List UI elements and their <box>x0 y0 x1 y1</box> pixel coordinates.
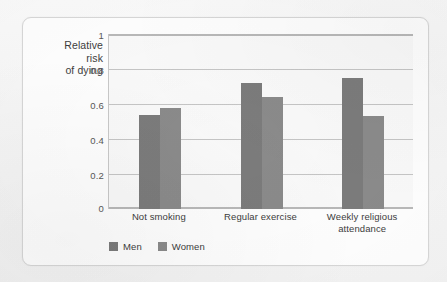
y-axis-title-line-1: Relative <box>35 39 103 52</box>
x-axis-label-line: Regular exercise <box>210 211 312 223</box>
legend-label-women: Women <box>172 241 205 252</box>
bar-women[interactable] <box>363 116 384 209</box>
x-axis-label: Regular exercise <box>210 211 312 223</box>
x-axis-label: Weekly religiousattendance <box>311 211 413 235</box>
y-tick-label-0.2: 0.2 <box>90 169 104 180</box>
bar-men[interactable] <box>342 78 363 209</box>
bar-women[interactable] <box>262 97 283 209</box>
x-axis-label: Not smoking <box>108 211 210 223</box>
bar-group <box>241 34 283 209</box>
y-tick-label-0.4: 0.4 <box>90 134 104 145</box>
x-axis-label-line: attendance <box>311 223 413 235</box>
x-axis-label-line: Not smoking <box>108 211 210 223</box>
legend-label-men: Men <box>123 241 142 252</box>
bar-men[interactable] <box>241 83 262 209</box>
y-tick-label-1: 1 <box>99 30 104 41</box>
bar-men[interactable] <box>139 115 160 210</box>
figure-card: Relative risk of dying 00.20.40.60.81 No… <box>22 17 429 266</box>
y-tick-label-0.6: 0.6 <box>90 99 104 110</box>
plot-area: 00.20.40.60.81 <box>108 34 413 209</box>
legend-item-men[interactable]: Men <box>109 241 142 252</box>
x-axis-labels: Not smokingRegular exerciseWeekly religi… <box>108 211 413 245</box>
y-tick-label-0.8: 0.8 <box>90 64 104 75</box>
y-tick-label-0: 0 <box>99 203 104 214</box>
bar-group <box>342 34 384 209</box>
legend-item-women[interactable]: Women <box>158 241 205 252</box>
bar-women[interactable] <box>160 108 181 210</box>
legend-swatch-men-icon <box>109 242 118 251</box>
x-axis-label-line: Weekly religious <box>311 211 413 223</box>
chart-legend: Men Women <box>109 241 205 252</box>
bar-group <box>139 34 181 209</box>
y-axis-title-line-2: risk <box>35 52 103 65</box>
legend-swatch-women-icon <box>158 242 167 251</box>
bar-chart: Relative risk of dying 00.20.40.60.81 No… <box>23 18 428 265</box>
